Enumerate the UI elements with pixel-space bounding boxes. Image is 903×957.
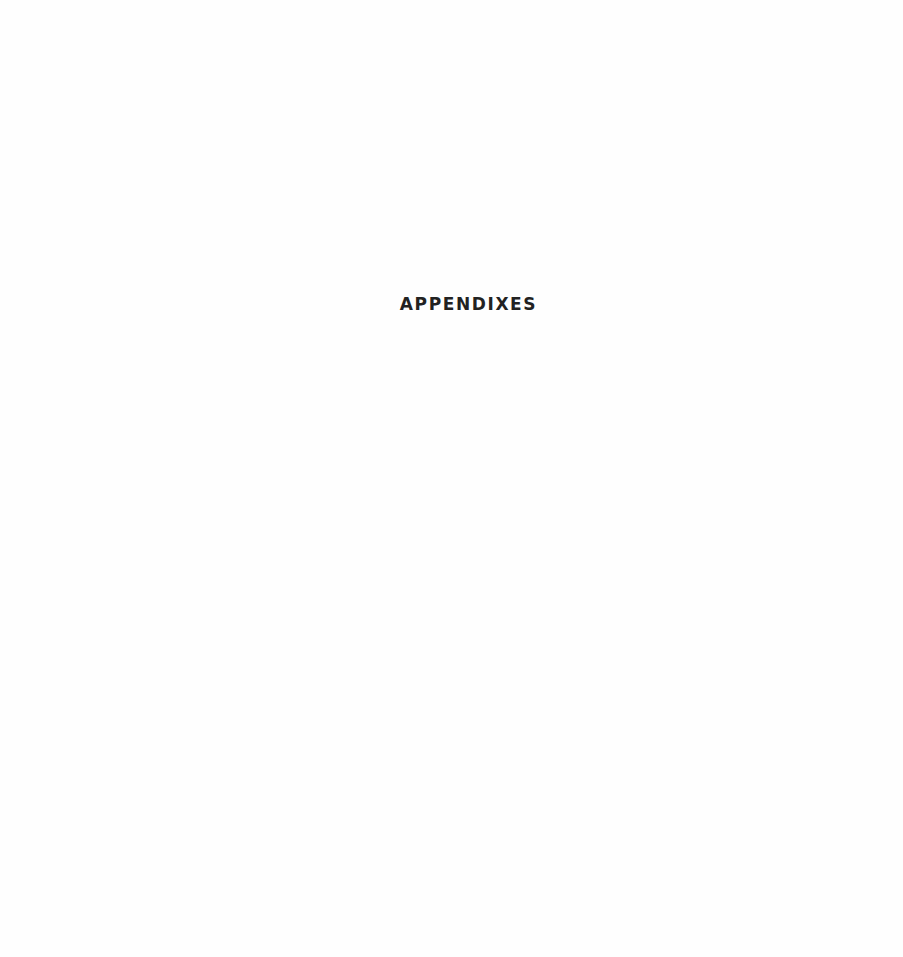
section-title: APPENDIXES xyxy=(403,292,534,316)
document-page: APPENDIXES xyxy=(0,0,903,957)
